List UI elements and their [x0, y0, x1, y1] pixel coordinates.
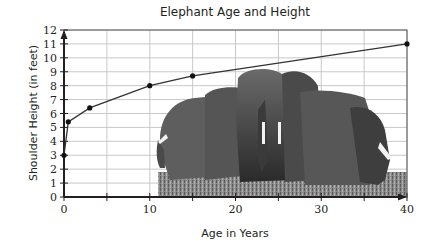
x-tick-label: 20 — [229, 203, 243, 216]
data-point — [190, 73, 195, 78]
x-tick-label: 0 — [61, 203, 68, 216]
y-tick-label: 12 — [43, 24, 57, 37]
y-tick-label: 1 — [50, 177, 57, 190]
data-point — [404, 41, 409, 46]
x-tick-label: 40 — [400, 203, 414, 216]
line-chart: 0123456789101112010203040 — [0, 0, 430, 250]
elephant-photo — [157, 69, 407, 197]
y-tick-label: 2 — [50, 163, 57, 176]
y-tick-label: 5 — [50, 121, 57, 134]
y-tick-label: 6 — [50, 108, 57, 121]
y-tick-label: 9 — [50, 66, 57, 79]
y-tick-label: 7 — [50, 94, 57, 107]
y-tick-label: 11 — [43, 38, 57, 51]
y-tick-label: 4 — [50, 135, 57, 148]
x-tick-label: 10 — [143, 203, 157, 216]
y-tick-label: 10 — [43, 52, 57, 65]
y-tick-label: 8 — [50, 80, 57, 93]
x-tick-label: 30 — [314, 203, 328, 216]
data-point — [66, 119, 71, 124]
data-point — [87, 105, 92, 110]
data-point — [61, 153, 66, 158]
data-point — [147, 83, 152, 88]
y-tick-label: 3 — [50, 149, 57, 162]
y-tick-label: 0 — [50, 191, 57, 204]
